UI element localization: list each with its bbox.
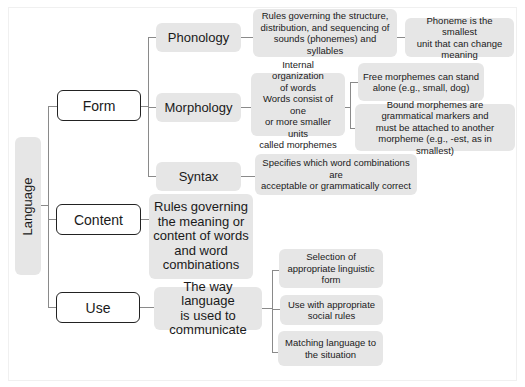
- branch-form-label: Form: [83, 98, 116, 114]
- connector-syntax-desc: [241, 176, 255, 177]
- connector-root-stub: [41, 205, 48, 206]
- connector-to-selection: [272, 270, 279, 271]
- connector-to-social: [272, 309, 280, 310]
- node-syntax: Syntax: [156, 162, 241, 191]
- connector-use-bracket: [272, 270, 273, 353]
- phonology-label: Phonology: [168, 30, 229, 45]
- phoneme-note: Phoneme is the smallest unit that can ch…: [405, 18, 514, 57]
- branch-content: Content: [56, 204, 141, 235]
- connector-content-desc: [141, 219, 149, 220]
- morphology-label: Morphology: [165, 100, 233, 115]
- phonology-description: Rules governing the structure, distribut…: [253, 9, 397, 57]
- connector-root-trunk: [48, 106, 49, 308]
- syntax-label: Syntax: [179, 169, 219, 184]
- use-description: The way language is used to communicate: [154, 287, 262, 330]
- connector-to-content: [48, 219, 56, 220]
- connector-to-form: [48, 106, 57, 107]
- connector-phonology-note: [397, 37, 405, 38]
- node-morphology: Morphology: [156, 93, 241, 122]
- branch-content-label: Content: [74, 212, 123, 228]
- connector-use-desc: [140, 307, 154, 308]
- bound-morphemes-note: Bound morphemes are grammatical markers …: [355, 104, 515, 151]
- connector-morphology-bracket: [350, 82, 351, 129]
- use-note-social-rules: Use with appropriate social rules: [280, 295, 383, 325]
- connector-form-stub: [141, 106, 148, 107]
- connector-to-morphology: [148, 107, 156, 108]
- use-note-matching: Matching language to the situation: [278, 331, 383, 366]
- branch-form: Form: [57, 90, 141, 121]
- connector-use-stub: [262, 308, 272, 309]
- root-node-language: Language: [15, 137, 41, 275]
- connector-to-free: [350, 82, 358, 83]
- root-label: Language: [21, 177, 36, 235]
- connector-to-phonology: [148, 37, 156, 38]
- node-phonology: Phonology: [156, 23, 241, 52]
- connector-morphology-desc: [241, 107, 251, 108]
- free-morphemes-note: Free morphemes can stand alone (e.g., sm…: [358, 63, 484, 101]
- morphology-description: Internal organization of words Words con…: [251, 73, 345, 136]
- syntax-description: Specifies which word combinations are ac…: [255, 154, 417, 195]
- connector-to-use: [48, 307, 56, 308]
- branch-use-label: Use: [86, 300, 111, 316]
- use-note-selection: Selection of appropriate linguistic form: [279, 249, 383, 288]
- content-description: Rules governing the meaning or content o…: [149, 194, 253, 279]
- branch-use: Use: [56, 292, 140, 323]
- connector-phonology-desc: [241, 37, 253, 38]
- connector-to-syntax: [148, 176, 156, 177]
